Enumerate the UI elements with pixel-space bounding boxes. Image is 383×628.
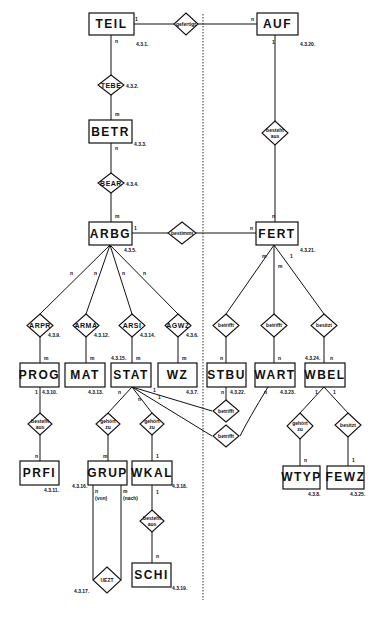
entity-schi[interactable]: SCHI: [132, 563, 171, 587]
line-stat-gehoert-wkal: [132, 387, 152, 413]
relationship-label-line2: zu: [105, 424, 111, 430]
ref-prog: 4.3.10.: [42, 389, 58, 395]
entity-fert[interactable]: FERT: [256, 222, 298, 245]
entity-wz[interactable]: WZ: [158, 363, 197, 387]
card: 1: [35, 389, 38, 395]
card: n: [35, 453, 38, 459]
entity-label: GRUP: [87, 466, 128, 480]
relationship-betrifft-wart[interactable]: betrifft: [261, 314, 287, 337]
relationship-gefertigt[interactable]: gefertigt: [174, 13, 198, 35]
card: n: [115, 38, 118, 44]
entity-teil[interactable]: TEIL: [89, 13, 134, 35]
relationship-label: UEZT: [100, 577, 113, 583]
entity-wbel[interactable]: WBEL: [304, 363, 345, 387]
entity-label: WTYP: [281, 470, 322, 484]
card: n: [304, 457, 307, 463]
entity-stbu[interactable]: STBU: [207, 363, 246, 387]
ref-fewz: 4.3.25.: [350, 491, 366, 497]
card: n: [122, 270, 125, 276]
relationship-besitzt-wbel[interactable]: besitzt: [311, 314, 337, 337]
entity-label: PRFI: [23, 466, 56, 480]
relationship-betrifft-stat-wart[interactable]: betrifft: [213, 425, 239, 447]
line-arbg-arpr: [40, 245, 110, 314]
relationship-label: BEAR: [100, 180, 122, 187]
entity-fewz[interactable]: FEWZ: [326, 466, 366, 489]
card: m: [278, 263, 283, 269]
ref-wart: 4.3.23.: [280, 389, 296, 395]
relationship-label: betrifft: [218, 322, 234, 328]
relationship-bestimmt[interactable]: bestimmt: [168, 222, 196, 244]
role-label-nach: (nach): [123, 495, 138, 501]
ref-stbu: 4.3.22.: [230, 389, 246, 395]
ref-uezt: 4.3.17.: [74, 588, 90, 594]
relationship-gehoert-zu-wtyp[interactable]: gehörtzu: [287, 413, 313, 439]
ref-wtyp: 4.3.8.: [308, 491, 321, 497]
ref-arma: 4.3.12.: [94, 332, 110, 338]
card: 1: [315, 389, 318, 395]
entity-wtyp[interactable]: WTYP: [281, 466, 322, 489]
entity-wart[interactable]: WART: [254, 363, 295, 387]
relationship-label-line2: zu: [149, 424, 155, 430]
relationship-label: betrifft: [218, 408, 234, 414]
relationship-label: besitzt: [316, 322, 332, 328]
card: n: [221, 389, 224, 395]
card: m: [115, 213, 120, 219]
line-stat-betrifft-s1: [132, 387, 212, 411]
card: m: [90, 355, 95, 361]
entity-label: WZ: [167, 368, 189, 382]
entity-prfi[interactable]: PRFI: [20, 461, 59, 485]
entity-label: TEIL: [96, 17, 128, 31]
ref-teil: 4.3.1.: [136, 41, 149, 47]
line-wbel-besitzt2: [324, 387, 348, 413]
entity-label: AUF: [263, 17, 292, 31]
entity-label: SCHI: [134, 568, 169, 582]
relationship-bear[interactable]: BEAR: [98, 173, 124, 193]
entity-arbg[interactable]: ARBG: [89, 222, 132, 245]
ref-mat: 4.3.13.: [88, 389, 104, 395]
card: m: [103, 453, 108, 459]
relationship-gehoert-zu-wkal[interactable]: gehörtzu: [140, 413, 164, 435]
relationship-betrifft-stat-stbu[interactable]: betrifft: [213, 400, 239, 422]
relationship-label-line2: zu: [297, 426, 303, 432]
entity-label: BETR: [91, 125, 130, 139]
entity-mat[interactable]: MAT: [65, 363, 105, 387]
entity-label: MAT: [70, 368, 100, 382]
relationship-besteht-aus-prfi[interactable]: bestehtaus: [28, 413, 52, 435]
card: n: [94, 270, 97, 276]
card: n: [278, 355, 281, 361]
card: 1: [272, 39, 275, 45]
ref-arsi: 4.3.14.: [140, 332, 156, 338]
ref-auf: 4.3.20.: [300, 41, 316, 47]
relationship-besitzt-fewz[interactable]: besitzt: [335, 413, 361, 437]
relationship-label: TEBE: [101, 82, 122, 89]
relationship-besteht-aus-schi[interactable]: bestehtaus: [140, 510, 164, 532]
entity-wkal[interactable]: WKAL: [131, 461, 173, 485]
role-label-von: (von): [95, 495, 108, 501]
entity-auf[interactable]: AUF: [257, 13, 298, 35]
entity-label: WART: [254, 368, 295, 382]
line-arbg-arma: [86, 245, 110, 314]
card: 1: [134, 225, 137, 231]
card: 1: [156, 489, 159, 495]
card: m: [182, 355, 187, 361]
relationship-tebe[interactable]: TEBE: [98, 75, 124, 95]
relationship-gehoert-zu-grup[interactable]: gehörtzu: [96, 413, 120, 435]
relationship-besteht-aus-fert[interactable]: bestehtaus: [262, 121, 288, 145]
connector-lines: [40, 24, 348, 580]
card: n: [220, 355, 223, 361]
entity-grup[interactable]: GRUP: [87, 461, 128, 485]
line-fert-betrifft1: [226, 245, 274, 314]
ref-fert: 4.3.21.: [300, 247, 316, 253]
entity-stat[interactable]: STAT: [111, 363, 151, 387]
relationship-uezt[interactable]: UEZT: [93, 567, 121, 593]
entity-label: STBU: [207, 368, 246, 382]
entity-label: ARBG: [90, 227, 131, 241]
card: n: [143, 270, 146, 276]
card: n: [251, 16, 254, 22]
entity-betr[interactable]: BETR: [89, 120, 132, 143]
relationship-betrifft-stbu[interactable]: betrifft: [213, 314, 239, 337]
card: m: [123, 488, 128, 494]
line-wbel-gehoert: [300, 387, 324, 413]
entity-prog[interactable]: PROG: [19, 363, 60, 387]
entity-label: FEWZ: [326, 470, 366, 484]
